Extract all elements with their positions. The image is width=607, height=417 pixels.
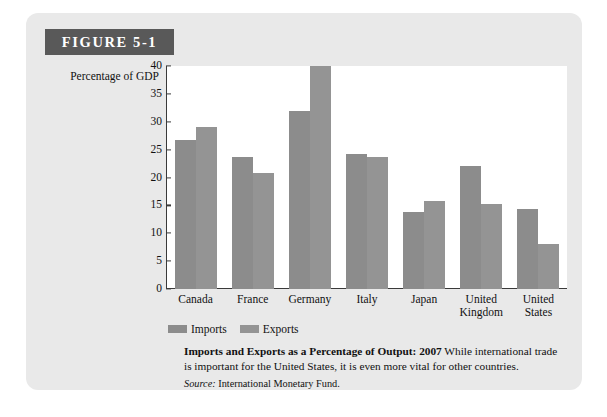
y-tick-mark xyxy=(166,121,171,122)
bar-imports-italy xyxy=(346,154,367,289)
y-tick-mark xyxy=(166,177,171,178)
legend-label-imports: Imports xyxy=(191,323,227,335)
bar-imports-united-kingdom xyxy=(460,166,481,289)
x-tick-label: UnitedKingdom xyxy=(453,293,510,318)
x-tick-label: Canada xyxy=(167,293,224,306)
bar-imports-germany xyxy=(289,111,310,289)
bar-imports-japan xyxy=(403,212,424,289)
legend-swatch-imports xyxy=(168,325,187,333)
legend-label-exports: Exports xyxy=(263,323,299,335)
figure-caption: Imports and Exports as a Percentage of O… xyxy=(184,344,567,373)
caption-title: Imports and Exports as a Percentage of O… xyxy=(184,345,442,357)
bar-imports-france xyxy=(232,157,253,289)
figure-source: Source: International Monetary Fund. xyxy=(184,378,340,389)
x-tick-label: Italy xyxy=(338,293,395,306)
x-tick-label: UnitedStates xyxy=(510,293,567,318)
bar-exports-japan xyxy=(424,201,445,289)
legend-swatch-exports xyxy=(240,325,259,333)
y-tick-mark xyxy=(166,205,171,206)
y-tick-label: 25 xyxy=(151,144,163,156)
bar-imports-united-states xyxy=(517,209,538,289)
y-tick-label: 0 xyxy=(156,283,162,295)
y-tick-label: 20 xyxy=(151,172,163,184)
y-tick-label: 15 xyxy=(151,200,163,212)
y-axis-tick-labels: 0510152025303540 xyxy=(136,66,162,289)
y-tick-mark xyxy=(166,233,171,234)
y-tick-mark xyxy=(166,149,171,150)
bar-exports-united-kingdom xyxy=(481,204,502,289)
legend-item-imports: Imports xyxy=(168,323,227,335)
figure-number-banner: FIGURE 5-1 xyxy=(45,29,174,55)
x-tick-label: France xyxy=(224,293,281,306)
y-tick-label: 10 xyxy=(151,228,163,240)
y-tick-mark xyxy=(166,65,171,66)
x-tick-label: Japan xyxy=(396,293,453,306)
y-tick-label: 40 xyxy=(151,60,163,72)
figure-number-label: FIGURE 5-1 xyxy=(62,34,157,51)
source-value: International Monetary Fund. xyxy=(218,378,340,389)
x-tick-label: Germany xyxy=(281,293,338,306)
bar-exports-italy xyxy=(367,157,388,289)
y-tick-label: 30 xyxy=(151,116,163,128)
source-label: Source: xyxy=(184,378,216,389)
chart-legend: ImportsExports xyxy=(168,323,299,335)
y-tick-label: 5 xyxy=(156,255,162,267)
bar-chart: 0510152025303540 CanadaFranceGermanyItal… xyxy=(136,66,567,311)
bar-exports-germany xyxy=(310,66,331,289)
legend-item-exports: Exports xyxy=(240,323,299,335)
bar-exports-united-states xyxy=(538,244,559,289)
figure-card: FIGURE 5-1 Percentage of GDP 05101520253… xyxy=(26,13,582,390)
bar-imports-canada xyxy=(175,140,196,289)
bar-exports-canada xyxy=(196,127,217,289)
y-tick-mark xyxy=(166,93,171,94)
y-tick-mark xyxy=(166,261,171,262)
y-tick-label: 35 xyxy=(151,88,163,100)
bar-exports-france xyxy=(253,173,274,289)
